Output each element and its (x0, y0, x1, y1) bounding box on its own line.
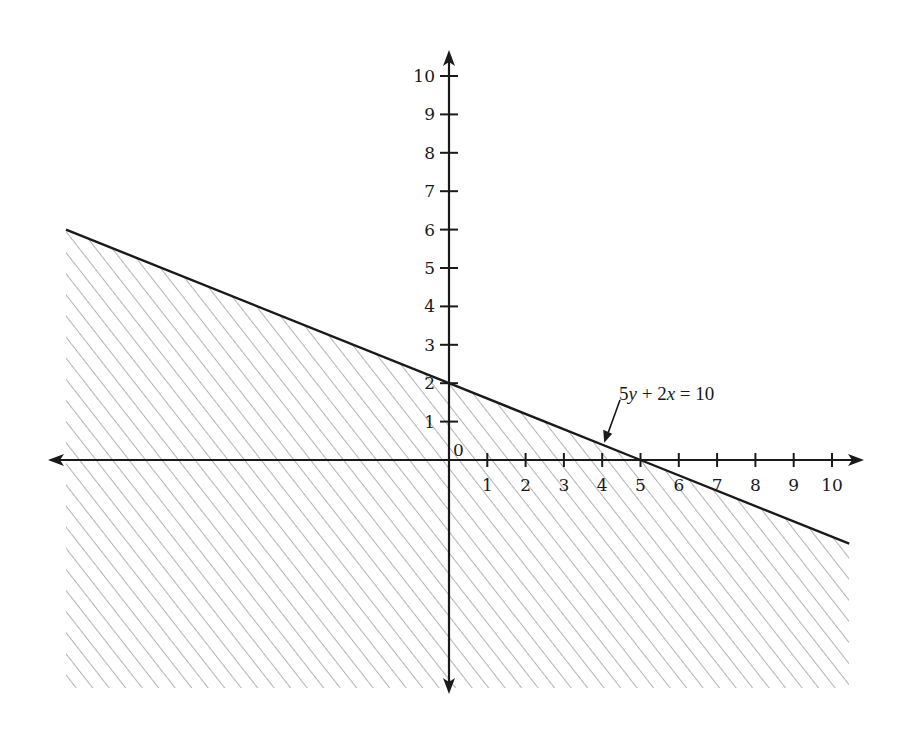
x-tick-label: 5 (635, 475, 646, 495)
y-tick-label: 10 (413, 66, 435, 86)
origin-label: 0 (453, 440, 464, 460)
annotation-arrow-icon (603, 430, 612, 443)
y-tick-label: 1 (424, 412, 435, 432)
equation-annotation: 5y + 2x = 10 (603, 383, 714, 443)
x-tick-label: 10 (821, 475, 843, 495)
annotation-pointer (608, 400, 620, 433)
x-tick-label: 3 (558, 475, 569, 495)
equation-label: 5y + 2x = 10 (619, 383, 714, 404)
x-tick-label: 4 (597, 475, 608, 495)
y-tick-label: 7 (424, 181, 435, 201)
y-tick-label: 6 (424, 220, 435, 240)
x-tick-label: 1 (482, 475, 493, 495)
x-tick-label: 2 (520, 475, 531, 495)
x-tick-label: 8 (750, 475, 761, 495)
x-tick-label: 9 (788, 475, 799, 495)
inequality-graph: 12345678910123456789100 5y + 2x = 10 (0, 0, 917, 736)
y-tick-label: 4 (424, 296, 435, 316)
y-tick-label: 5 (424, 258, 435, 278)
y-tick-label: 3 (424, 335, 435, 355)
y-tick-label: 8 (424, 143, 435, 163)
y-tick-label: 9 (424, 104, 435, 124)
